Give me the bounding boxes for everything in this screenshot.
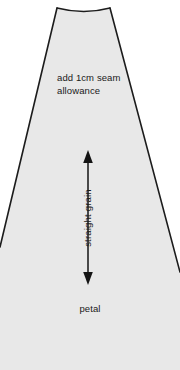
petal-pattern-drawing	[0, 0, 180, 370]
pattern-sheet: add 1cm seam allowance straight grain pe…	[0, 0, 180, 370]
petal-piece-outline	[0, 8, 180, 370]
